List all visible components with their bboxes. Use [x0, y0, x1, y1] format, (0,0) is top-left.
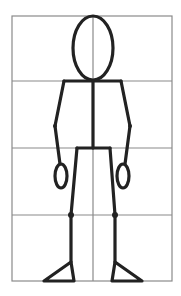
- right-foot: [112, 262, 142, 281]
- right-knee-joint: [112, 212, 118, 218]
- right-elbow-joint: [128, 124, 132, 128]
- left-arm: [55, 81, 64, 164]
- left-knee-joint: [68, 212, 74, 218]
- proportion-diagram: Stick figure body proportions on a grid: [0, 0, 181, 296]
- left-hand: [55, 164, 67, 188]
- left-foot: [44, 262, 74, 281]
- left-leg: [71, 148, 77, 262]
- right-arm: [121, 81, 130, 164]
- right-hand: [117, 164, 129, 188]
- left-elbow-joint: [53, 124, 57, 128]
- right-leg: [110, 148, 115, 262]
